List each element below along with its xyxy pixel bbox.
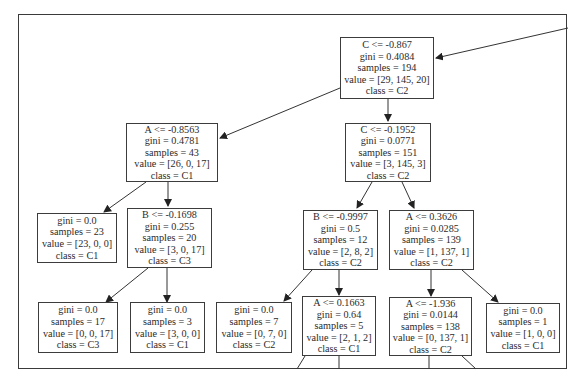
node-class: class = C1: [151, 170, 194, 182]
node-value: value = [2, 8, 2]: [308, 246, 373, 258]
node-split: A <= 0.1663: [313, 297, 364, 309]
node-samples: samples = 43: [145, 147, 199, 159]
node-samples: samples = 139: [402, 234, 461, 246]
node-samples: samples = 20: [143, 232, 197, 244]
node-split: A <= 0.3626: [406, 211, 457, 223]
node-gini: gini = 0.0: [57, 215, 96, 227]
node-split: B <= -0.1698: [142, 209, 197, 221]
node-value: value = [26, 0, 17]: [134, 158, 209, 170]
node-gini: gini = 0.0: [148, 304, 187, 316]
node-value: value = [3, 0, 17]: [134, 244, 204, 256]
node-samples: samples = 194: [358, 62, 417, 74]
node-class: class = C1: [318, 343, 361, 355]
node-gini: gini = 0.255: [145, 221, 195, 233]
tree-node-a4-split: A <= 0.1663 gini = 0.64 samples = 5 valu…: [302, 296, 376, 356]
node-class: class = C1: [502, 340, 545, 352]
node-samples: samples = 3: [143, 316, 192, 328]
node-class: class = C2: [410, 257, 453, 269]
node-value: value = [29, 145, 20]: [344, 74, 430, 86]
node-samples: samples = 12: [314, 234, 368, 246]
node-gini: gini = 0.0: [503, 305, 542, 317]
node-gini: gini = 0.64: [317, 309, 362, 321]
node-samples: samples = 17: [51, 316, 105, 328]
node-value: value = [1, 137, 1]: [394, 246, 469, 258]
node-gini: gini = 0.0285: [404, 223, 459, 235]
node-value: value = [3, 145, 3]: [350, 158, 425, 170]
tree-leaf-3: gini = 0.0 samples = 3 value = [3, 0, 0]…: [130, 302, 205, 353]
tree-node-a5-split: A <= -1.936 gini = 0.0144 samples = 138 …: [389, 297, 472, 356]
node-value: value = [23, 0, 0]: [42, 238, 112, 250]
node-samples: samples = 23: [50, 226, 104, 238]
node-samples: samples = 5: [315, 320, 364, 332]
node-value: value = [3, 0, 0]: [135, 328, 200, 340]
tree-node-c-split: C <= -0.1952 gini = 0.0771 samples = 151…: [345, 123, 431, 182]
node-class: class = C3: [57, 339, 100, 351]
node-gini: gini = 0.5: [321, 223, 360, 235]
tree-node-b2-split: B <= -0.9997 gini = 0.5 samples = 12 val…: [303, 210, 378, 270]
node-gini: gini = 0.0: [234, 304, 273, 316]
node-gini: gini = 0.4781: [145, 135, 200, 147]
node-split: A <= -0.8563: [145, 124, 200, 136]
node-samples: samples = 138: [401, 321, 460, 333]
node-value: value = [0, 137, 1]: [393, 332, 468, 344]
node-samples: samples = 7: [230, 316, 279, 328]
node-value: value = [0, 7, 0]: [221, 328, 286, 340]
node-split: B <= -0.9997: [313, 211, 368, 223]
node-value: value = [0, 0, 17]: [43, 328, 113, 340]
node-class: class = C1: [56, 250, 99, 262]
node-class: class = C2: [409, 344, 452, 356]
node-class: class = C1: [146, 339, 189, 351]
tree-leaf-1: gini = 0.0 samples = 1 value = [1, 0, 0]…: [486, 303, 560, 353]
tree-leaf-7: gini = 0.0 samples = 7 value = [0, 7, 0]…: [216, 302, 292, 353]
node-value: value = [2, 1, 2]: [306, 332, 371, 344]
node-samples: samples = 151: [359, 147, 418, 159]
tree-leaf-17: gini = 0.0 samples = 17 value = [0, 0, 1…: [38, 302, 118, 353]
node-class: class = C2: [367, 170, 410, 182]
node-gini: gini = 0.0144: [403, 309, 458, 321]
tree-node-a-split: A <= -0.8563 gini = 0.4781 samples = 43 …: [126, 123, 218, 182]
tree-node-a3-split: A <= 0.3626 gini = 0.0285 samples = 139 …: [389, 210, 474, 270]
node-value: value = [1, 0, 0]: [490, 328, 555, 340]
node-gini: gini = 0.0: [58, 304, 97, 316]
node-split: C <= -0.1952: [361, 124, 416, 136]
node-class: class = C2: [366, 85, 409, 97]
node-split: A <= -1.936: [406, 298, 456, 310]
node-gini: gini = 0.4084: [360, 51, 415, 63]
tree-node-b-split: B <= -0.1698 gini = 0.255 samples = 20 v…: [127, 208, 212, 268]
tree-node-root: C <= -0.867 gini = 0.4084 samples = 194 …: [340, 37, 434, 99]
node-gini: gini = 0.0771: [361, 135, 416, 147]
node-split: C <= -0.867: [362, 39, 412, 51]
node-class: class = C3: [148, 255, 191, 267]
node-class: class = C2: [233, 339, 276, 351]
node-class: class = C2: [319, 257, 362, 269]
tree-leaf-23: gini = 0.0 samples = 23 value = [23, 0, …: [37, 213, 117, 263]
node-samples: samples = 1: [499, 316, 548, 328]
